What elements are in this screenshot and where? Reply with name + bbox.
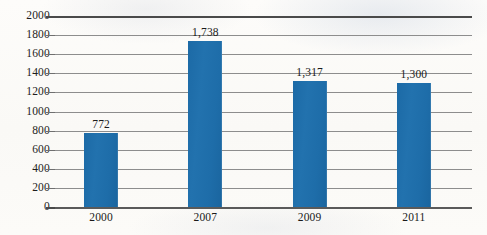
y-tick-mark	[46, 54, 55, 55]
bar-value-label-2000: 772	[92, 119, 110, 131]
y-tick-mark	[46, 150, 55, 151]
y-tick-mark	[46, 16, 55, 18]
y-axis-tick-label: 0	[4, 201, 50, 213]
bar-value-label-2007: 1,738	[192, 27, 219, 39]
y-tick-mark	[46, 35, 55, 36]
bar-2000[interactable]	[84, 133, 118, 207]
x-axis-tick-label-2011: 2011	[402, 212, 425, 224]
y-axis-tick-label: 1800	[4, 29, 50, 41]
y-axis-tick-label: 200	[4, 182, 50, 194]
y-tick-mark	[46, 188, 55, 189]
x-axis-tick-label-2000: 2000	[89, 212, 113, 224]
bar-value-label-2011: 1,300	[400, 69, 427, 81]
x-axis-tick-label-2007: 2007	[193, 212, 217, 224]
gridline-2000	[55, 16, 472, 18]
gridline-0	[55, 207, 472, 209]
gridline-1800	[55, 35, 472, 36]
bar-2009[interactable]	[293, 81, 327, 207]
y-tick-mark	[46, 207, 55, 209]
y-axis-tick-label: 400	[4, 163, 50, 175]
y-tick-mark	[46, 131, 55, 132]
bar-2007[interactable]	[188, 41, 222, 207]
y-axis-tick-label: 1200	[4, 87, 50, 99]
y-axis-tick-label: 2000	[4, 10, 50, 22]
y-axis-tick-label: 600	[4, 144, 50, 156]
y-axis-tick-label: 1600	[4, 48, 50, 60]
plot-area	[55, 16, 472, 207]
y-axis-tick-label: 1000	[4, 106, 50, 118]
gridline-1600	[55, 54, 472, 55]
bar-2011[interactable]	[397, 83, 431, 207]
y-axis-tick-label: 1400	[4, 68, 50, 80]
y-tick-mark	[46, 169, 55, 170]
y-axis-tick-label: 800	[4, 125, 50, 137]
y-tick-mark	[46, 73, 55, 74]
bar-value-label-2009: 1,317	[296, 67, 323, 79]
y-tick-mark	[46, 112, 55, 113]
y-axis-labels: 0200400600800100012001400160018002000	[0, 16, 50, 207]
y-tick-mark	[46, 92, 55, 93]
x-axis-tick-label-2009: 2009	[298, 212, 322, 224]
bar-chart: 0200400600800100012001400160018002000 20…	[0, 0, 487, 235]
